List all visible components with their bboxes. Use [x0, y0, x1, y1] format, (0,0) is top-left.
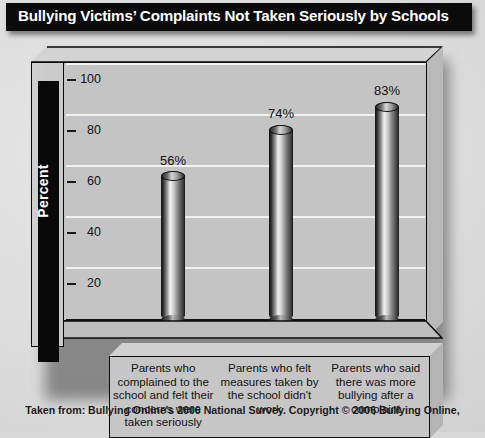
gridline-100 — [66, 63, 425, 65]
chart-title-banner: Bullying Victims’ Complaints Not Taken S… — [6, 3, 472, 31]
plot-top-face — [31, 46, 443, 62]
gridline-60 — [66, 165, 425, 167]
y-axis-panel: Percent — [31, 62, 64, 347]
bar-body-3 — [375, 107, 399, 320]
gridline-80 — [66, 114, 425, 116]
category-label-3: Parents who said there was more bullying… — [323, 357, 429, 437]
bar-value-2: 74% — [251, 106, 311, 121]
ytick-label-20: 20 — [71, 276, 101, 290]
category-label-1: Parents who complained to the school and… — [110, 357, 216, 437]
plot-floor-face — [31, 321, 443, 338]
gridline-20 — [66, 267, 425, 269]
ytick-label-100: 100 — [71, 72, 101, 86]
bar-cap-3 — [375, 102, 399, 112]
source-caption: Taken from: Bullying Online's 2006 Natio… — [0, 404, 485, 416]
bar-cap-2 — [269, 125, 293, 135]
gridlines-group — [66, 63, 425, 320]
bar-1: 56% — [161, 63, 185, 320]
bar-body-1 — [161, 176, 185, 320]
bar-cap-1 — [161, 171, 185, 181]
label-box-top-face — [109, 343, 443, 356]
bar-body-2 — [269, 130, 293, 320]
category-label-box: Parents who complained to the school and… — [109, 343, 443, 438]
label-box-right-face — [430, 343, 443, 438]
gridline-40 — [66, 216, 425, 218]
chart-container: 100 80 60 40 20 0 56% 74% 83% Percent — [31, 46, 443, 392]
category-label-2: Parents who felt measures taken by the s… — [216, 357, 322, 437]
ytick-label-40: 40 — [71, 225, 101, 239]
bar-2: 74% — [269, 63, 293, 320]
bar-value-3: 83% — [357, 83, 417, 98]
bar-value-1: 56% — [143, 153, 203, 168]
bar-3: 83% — [375, 63, 399, 320]
ytick-label-60: 60 — [71, 174, 101, 188]
ytick-label-80: 80 — [71, 123, 101, 137]
axis-baseline — [66, 319, 425, 321]
label-box-front-face: Parents who complained to the school and… — [109, 356, 430, 438]
plot-right-face — [427, 46, 444, 338]
y-axis-title: Percent — [35, 131, 51, 251]
page-title: Bullying Victims’ Complaints Not Taken S… — [18, 7, 449, 24]
